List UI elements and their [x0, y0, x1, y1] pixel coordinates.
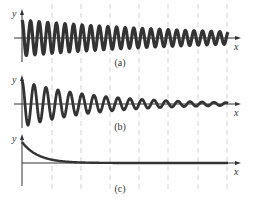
panel-caption-a: (a): [114, 57, 125, 69]
y-axis-arrow-icon: [20, 75, 24, 81]
y-axis-label-b: y: [11, 74, 17, 85]
exponential-decay-curve: [22, 142, 228, 163]
panel-a: y x (a): [11, 8, 241, 69]
damped-oscillation-curve-moderate: [22, 81, 228, 125]
x-axis-label-c: x: [233, 166, 239, 177]
x-axis-arrow-icon: [235, 102, 241, 106]
panel-b: y x (b): [11, 74, 241, 133]
panel-caption-c: (c): [114, 183, 125, 195]
x-axis-label-b: x: [233, 107, 239, 118]
y-axis-arrow-icon: [20, 134, 24, 140]
x-axis-arrow-icon: [235, 36, 241, 40]
y-axis-arrow-icon: [20, 9, 24, 15]
x-axis-label-a: x: [233, 41, 239, 52]
damping-figure: y x (a) y x (b) y x (c): [0, 0, 256, 200]
panel-caption-b: (b): [114, 121, 126, 133]
y-axis-label-c: y: [11, 133, 17, 144]
panel-c: y x (c): [11, 133, 241, 195]
x-axis-arrow-icon: [235, 161, 241, 165]
y-axis-label-a: y: [11, 8, 17, 19]
